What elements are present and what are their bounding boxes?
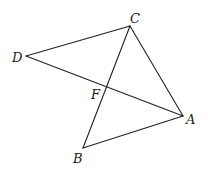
label-A: A: [185, 112, 195, 127]
segment-DA: [26, 56, 183, 116]
segments: [26, 26, 183, 148]
geometry-diagram: C D F A B: [0, 0, 208, 171]
segment-DC: [26, 26, 130, 56]
segment-CA: [130, 26, 183, 116]
segment-BA: [83, 116, 183, 148]
label-D: D: [11, 50, 23, 65]
label-C: C: [130, 11, 140, 26]
label-B: B: [72, 151, 83, 166]
label-F: F: [90, 87, 101, 102]
